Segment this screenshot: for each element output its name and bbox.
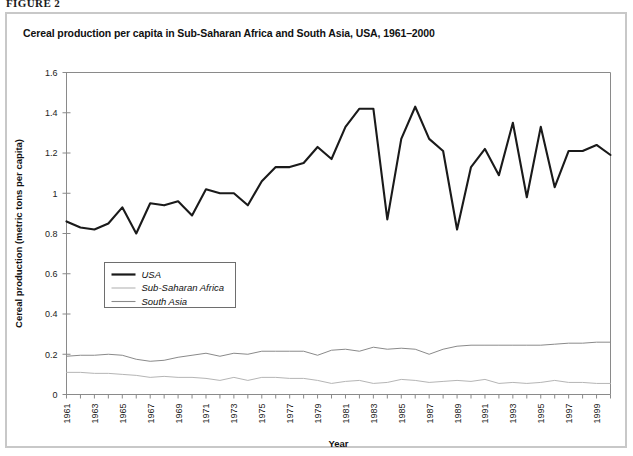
- x-tick-label: 1971: [201, 404, 211, 424]
- y-tick-label: 0: [52, 390, 57, 400]
- y-axis-title: Cereal production (metric tons per capit…: [13, 139, 24, 328]
- x-tick-label: 1965: [118, 404, 128, 424]
- y-tick-label: 1.6: [45, 68, 58, 78]
- series-line-usa: [67, 107, 611, 234]
- x-tick-label: 1979: [313, 404, 323, 424]
- x-tick-label: 1999: [592, 404, 602, 424]
- x-tick-label: 1975: [257, 404, 267, 424]
- x-axis-title: Year: [328, 438, 348, 449]
- series-line-sub-saharan-africa: [67, 372, 611, 383]
- y-tick-label: 1.4: [45, 108, 58, 118]
- legend-label-0[interactable]: USA: [142, 269, 162, 280]
- x-tick-label: 1995: [536, 404, 546, 424]
- x-tick-label: 1993: [508, 404, 518, 424]
- chart-svg-root: 00.20.40.60.811.21.41.619611963196519671…: [13, 68, 611, 449]
- y-tick-label: 1: [52, 189, 57, 199]
- chart-plot-area: 00.20.40.60.811.21.41.619611963196519671…: [0, 0, 633, 456]
- y-tick-label: 1.2: [45, 148, 58, 158]
- legend-label-2[interactable]: South Asia: [142, 296, 188, 307]
- legend-label-1[interactable]: Sub-Saharan Africa: [142, 282, 225, 293]
- x-tick-label: 1969: [174, 404, 184, 424]
- y-tick-label: 0.2: [45, 350, 58, 360]
- x-tick-label: 1977: [285, 404, 295, 424]
- y-tick-label: 0.8: [45, 229, 58, 239]
- x-tick-label: 1985: [397, 404, 407, 424]
- x-tick-label: 1983: [369, 404, 379, 424]
- x-tick-label: 1961: [62, 404, 72, 424]
- x-tick-label: 1963: [90, 404, 100, 424]
- y-tick-label: 0.4: [45, 309, 58, 319]
- y-tick-label: 0.6: [45, 269, 58, 279]
- x-tick-label: 1989: [453, 404, 463, 424]
- x-tick-label: 1997: [564, 404, 574, 424]
- x-tick-label: 1991: [480, 404, 490, 424]
- series-line-south-asia: [67, 342, 611, 361]
- x-tick-label: 1967: [146, 404, 156, 424]
- x-tick-label: 1981: [341, 404, 351, 424]
- x-tick-label: 1973: [229, 404, 239, 424]
- x-tick-label: 1987: [425, 404, 435, 424]
